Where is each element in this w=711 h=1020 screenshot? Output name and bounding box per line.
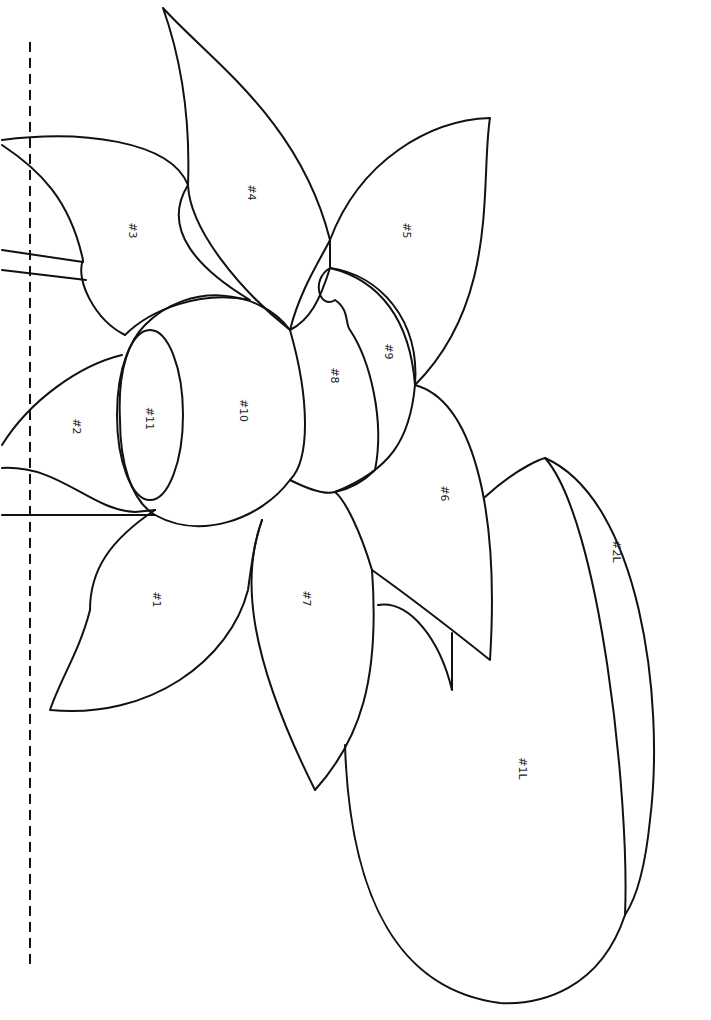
petal-6-outline <box>372 385 492 660</box>
label-center-10: #10 <box>237 399 250 422</box>
label-center-11: #11 <box>143 407 156 430</box>
petal-1-outline <box>50 510 262 711</box>
label-lily-pad-2L: #2L <box>610 540 623 562</box>
label-petal-3: #3 <box>126 222 139 238</box>
center-joint <box>290 480 335 493</box>
label-petal-1: #1 <box>150 591 163 607</box>
label-petal-2: #2 <box>70 418 83 434</box>
stem-line <box>2 270 86 280</box>
label-petal-7: #7 <box>300 590 313 606</box>
petal-5-outline <box>330 118 490 385</box>
petal-9-outline <box>330 268 415 492</box>
label-petal-4: #4 <box>245 184 258 200</box>
lily-pad-1L-outline <box>345 458 626 1003</box>
petal-7-outline <box>251 492 373 790</box>
stem-line <box>2 250 83 262</box>
label-petal-8: #8 <box>328 367 341 383</box>
label-petal-9: #9 <box>382 343 395 359</box>
label-petal-6: #6 <box>438 485 451 501</box>
lily-pad-2L-outline <box>545 458 654 915</box>
label-lily-pad-1L: #1L <box>516 757 529 779</box>
petal-4-outline <box>163 8 330 330</box>
petal-2-lower <box>2 468 155 512</box>
small-leaf-outline <box>378 605 452 690</box>
label-petal-5: #5 <box>400 222 413 238</box>
lotus-pattern-drawing <box>0 0 711 1020</box>
petal-2-outline <box>2 355 122 445</box>
